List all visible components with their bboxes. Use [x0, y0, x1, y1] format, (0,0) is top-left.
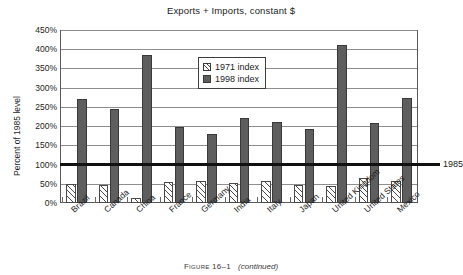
x-axis-label: China	[134, 192, 157, 214]
x-axis-label: Canada	[102, 187, 131, 214]
figure-note: (continued)	[238, 262, 278, 271]
x-axis-label: Italy	[265, 197, 283, 215]
x-axis-label: Brazil	[69, 193, 91, 215]
x-axis-label: Mexico	[395, 189, 422, 214]
x-axis-label: India	[232, 195, 252, 215]
figure-number: Figure 16–1	[184, 262, 231, 271]
x-axis-label: Germany	[199, 184, 232, 215]
x-axis-label: France	[167, 189, 193, 214]
figure-caption: Figure 16–1(continued)	[0, 262, 462, 271]
x-axis-label: Japan	[297, 191, 321, 214]
